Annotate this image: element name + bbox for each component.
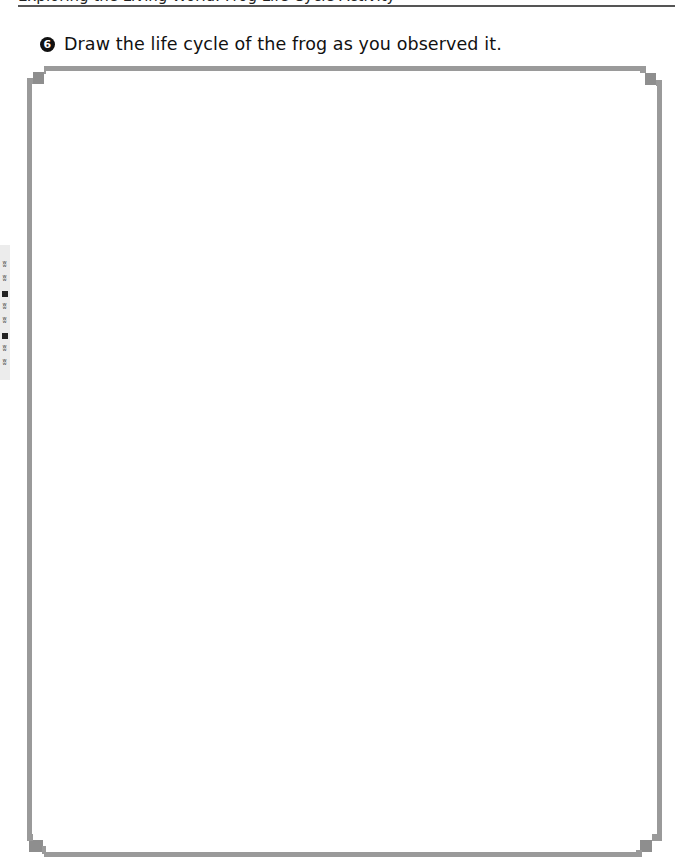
header-cut-off-text: Exploring the Living World: Frog Life Cy… [18, 0, 675, 4]
grass-icon: ʬ [1, 345, 8, 353]
marker-block-icon [2, 291, 8, 297]
instruction-text: Draw the life cycle of the frog as you o… [64, 34, 502, 54]
grass-icon: ʬ [1, 261, 8, 269]
grass-icon: ʬ [1, 303, 8, 311]
grass-icon: ʬ [1, 275, 8, 283]
grass-icon: ʬ [1, 317, 8, 325]
header-rule [18, 5, 675, 7]
step-number-badge: 6 [40, 37, 55, 52]
section-side-tab: ʬ ʬ ʬ ʬ ʬ ʬ [0, 245, 10, 380]
grass-icon: ʬ [1, 359, 8, 367]
drawing-area[interactable] [33, 72, 655, 850]
marker-block-icon [2, 333, 8, 339]
instruction-line: 6 Draw the life cycle of the frog as you… [40, 32, 502, 56]
